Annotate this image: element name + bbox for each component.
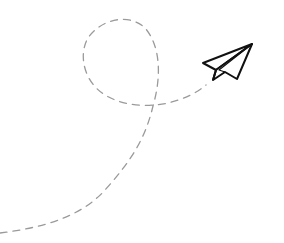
paper-plane-icon bbox=[203, 44, 252, 80]
illustration-canvas bbox=[0, 0, 284, 243]
flight-trail bbox=[0, 19, 206, 233]
